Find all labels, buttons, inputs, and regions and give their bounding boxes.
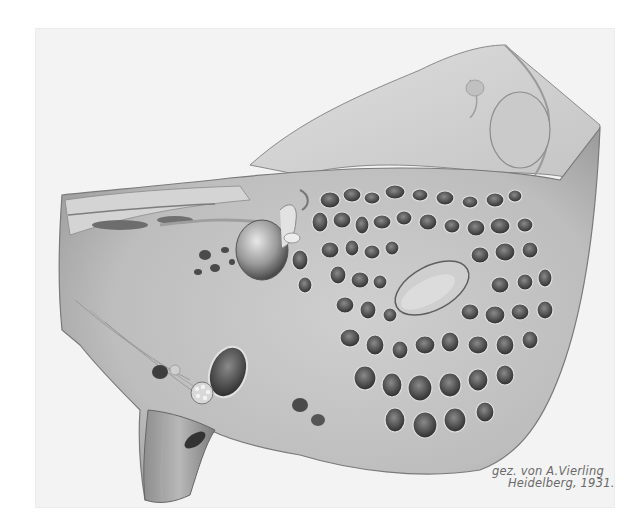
upper-surface [250, 45, 600, 185]
signature-line-2: Heidelberg, 1931. [490, 477, 630, 489]
artist-signature: gez. von A.Vierling Heidelberg, 1931. [490, 465, 630, 489]
temporal-bone-illustration [0, 0, 644, 532]
